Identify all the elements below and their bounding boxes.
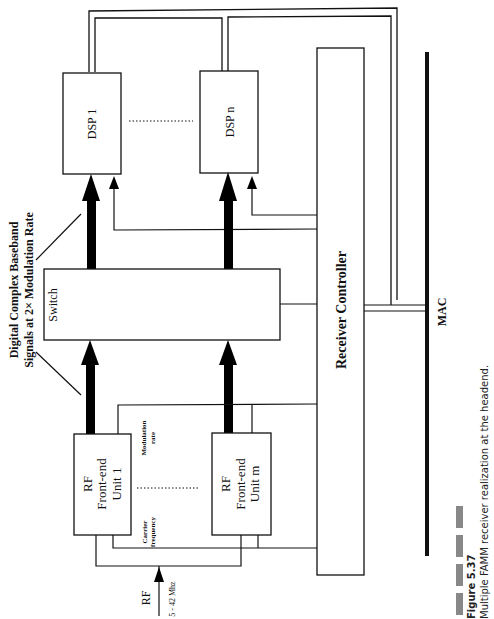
rf1-to-switch-arrow-shaft — [86, 362, 95, 435]
figure-number: Figure 5.37 — [466, 555, 477, 619]
famm-receiver-diagram: DSP 1 DSP n Receiver Controller MAC Swit… — [0, 0, 494, 619]
rfm-to-switch-arrow-shaft — [224, 362, 233, 435]
switch-label: Switch — [46, 288, 60, 321]
baseband-label-line2: Signals at 2× Modulation Rate — [22, 212, 36, 368]
switch-to-dspn-arrow-shaft — [224, 200, 233, 269]
rf1-label-line2: Front-end — [94, 458, 109, 510]
controller-to-dsp-control-lines — [114, 186, 317, 230]
dsp-1-control-arrowhead — [109, 176, 119, 189]
rf-input-arrowhead — [154, 567, 164, 582]
rf1-to-switch-arrowhead — [81, 340, 99, 365]
rfm-label-line1: RF — [218, 476, 233, 492]
rfm-label-line3: Unit m — [247, 466, 262, 502]
switch-to-dsp1-arrowhead — [82, 174, 100, 201]
baseband-pointer-upper — [36, 214, 81, 260]
controller-to-mac-wires — [364, 305, 427, 311]
baseband-label-line1: Digital Complex Baseband — [7, 221, 21, 358]
dsp-n-control-arrowhead — [247, 176, 257, 189]
rf1-label-line1: RF — [80, 476, 95, 492]
rf-range-label: 5 - 42 Mhz — [168, 581, 177, 617]
mac-label: MAC — [435, 298, 449, 327]
baseband-pointer-lower — [36, 352, 81, 395]
caption-decoration — [456, 506, 463, 615]
switch-to-dspn-arrowhead — [219, 172, 237, 201]
switch-to-dsp1-arrow-shaft — [87, 200, 96, 269]
dsp-1-label: DSP 1 — [85, 109, 99, 140]
rfm-label-line2: Front-end — [233, 458, 248, 510]
figure-caption: Multiple FAMM receiver realization at th… — [479, 365, 490, 619]
carrier-frequency-label-line2: frequency — [149, 517, 157, 547]
rf1-label-line3: Unit 1 — [109, 468, 124, 501]
switch-block — [44, 269, 280, 340]
rfm-to-switch-arrowhead — [219, 340, 237, 365]
modulation-rate-label-line2: rate — [149, 432, 157, 444]
dsp-n-label: DSP n — [223, 107, 237, 138]
modulation-rate-label-line1: Modulation — [140, 420, 148, 455]
carrier-frequency-label-line1: Carrier — [141, 521, 149, 544]
receiver-controller-label: Receiver Controller — [334, 251, 349, 369]
rf-input-label: RF — [139, 590, 153, 605]
